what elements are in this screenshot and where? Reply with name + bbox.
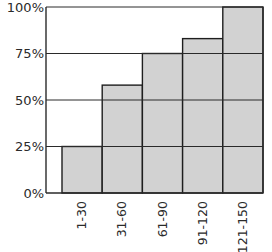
x-tick-label: 1-30 [74, 201, 89, 229]
y-tick-label: 25% [15, 139, 44, 154]
y-axis-tick-labels: 0%25%50%75%100% [7, 0, 44, 201]
cumulative-bar-chart: 1-30: 25%31-60: 58%61-90: 75%91-120: 83%… [0, 0, 272, 252]
y-tick-label: 75% [15, 46, 44, 61]
bar-61-90: 61-90: 75% [142, 54, 182, 194]
x-tick-label: 121-150 [235, 201, 250, 252]
x-tick-label: 61-90 [155, 201, 170, 237]
x-tick-label: 91-120 [195, 201, 210, 245]
y-tick-label: 0% [23, 186, 44, 201]
x-axis-tick-labels: 1-3031-6061-9091-120121-150 [74, 201, 250, 252]
bar-31-60: 31-60: 58% [102, 85, 142, 193]
bar-91-120: 91-120: 83% [183, 39, 223, 193]
y-tick-label: 50% [15, 93, 44, 108]
bar-1-30: 1-30: 25% [62, 147, 102, 194]
x-tick-label: 31-60 [114, 201, 129, 237]
y-tick-label: 100% [7, 0, 44, 15]
